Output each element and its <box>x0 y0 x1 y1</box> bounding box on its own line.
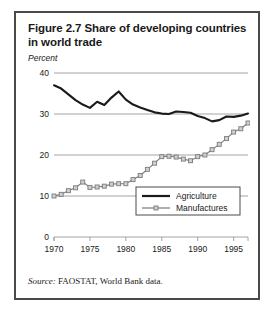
x-tick-label-1970: 1970 <box>45 244 64 254</box>
y-tick-label-30: 30 <box>40 109 50 119</box>
series-line-agriculture <box>54 85 248 121</box>
data-marker-manufactures <box>59 192 63 196</box>
data-marker-manufactures <box>81 180 85 184</box>
data-marker-manufactures <box>145 167 149 171</box>
data-marker-manufactures <box>102 184 106 188</box>
y-tick-label-20: 20 <box>40 150 50 160</box>
data-marker-manufactures <box>74 186 78 190</box>
legend-label-manufactures: Manufactures <box>176 203 228 213</box>
source-label: Source: <box>28 276 56 286</box>
data-marker-manufactures <box>131 178 135 182</box>
x-tick-label-1980: 1980 <box>116 244 135 254</box>
y-tick-label-10: 10 <box>40 191 50 201</box>
data-marker-manufactures <box>203 153 207 157</box>
figure-frame: Figure 2.7 Share of developing countries… <box>14 11 260 300</box>
data-marker-manufactures <box>138 174 142 178</box>
x-tick-label-1985: 1985 <box>152 244 171 254</box>
y-tick-label-0: 0 <box>44 232 49 242</box>
data-marker-manufactures <box>217 142 221 146</box>
data-marker-manufactures <box>117 182 121 186</box>
figure-title: Figure 2.7 Share of developing countries… <box>28 22 252 49</box>
data-marker-manufactures <box>224 137 228 141</box>
data-marker-manufactures <box>181 157 185 161</box>
data-marker-manufactures <box>160 155 164 159</box>
data-marker-manufactures <box>124 182 128 186</box>
y-tick-label-40: 40 <box>40 68 50 78</box>
data-marker-manufactures <box>153 161 157 165</box>
x-tick-label-1995: 1995 <box>224 244 243 254</box>
source-text: FAOSTAT, World Bank data. <box>58 276 163 286</box>
data-marker-manufactures <box>246 121 250 125</box>
data-marker-manufactures <box>88 185 92 189</box>
series-line-manufactures <box>54 123 248 196</box>
chart-plot-area: 010203040197019751980198519901995Agricul… <box>28 65 250 267</box>
legend-label-agriculture: Agriculture <box>176 191 217 201</box>
data-marker-manufactures <box>52 194 56 198</box>
data-marker-manufactures <box>174 155 178 159</box>
y-axis-unit-label: Percent <box>28 53 57 63</box>
x-tick-label-1975: 1975 <box>80 244 99 254</box>
source-note: Source: FAOSTAT, World Bank data. <box>28 276 163 286</box>
data-marker-manufactures <box>167 154 171 158</box>
x-tick-label-1990: 1990 <box>188 244 207 254</box>
legend-marker-manufactures <box>154 206 158 210</box>
data-marker-manufactures <box>95 185 99 189</box>
data-marker-manufactures <box>210 148 214 152</box>
data-marker-manufactures <box>189 159 193 163</box>
data-marker-manufactures <box>239 127 243 131</box>
data-marker-manufactures <box>109 182 113 186</box>
data-marker-manufactures <box>232 130 236 134</box>
data-marker-manufactures <box>66 189 70 193</box>
data-marker-manufactures <box>196 155 200 159</box>
line-chart: 010203040197019751980198519901995Agricul… <box>28 65 250 267</box>
